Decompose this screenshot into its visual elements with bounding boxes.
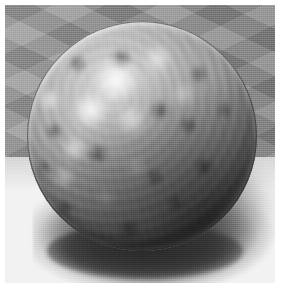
- sphere-rim-highlight: [27, 21, 257, 251]
- scene-root: [0, 0, 281, 292]
- sphere-group: [27, 21, 257, 251]
- render-frame: [5, 5, 275, 283]
